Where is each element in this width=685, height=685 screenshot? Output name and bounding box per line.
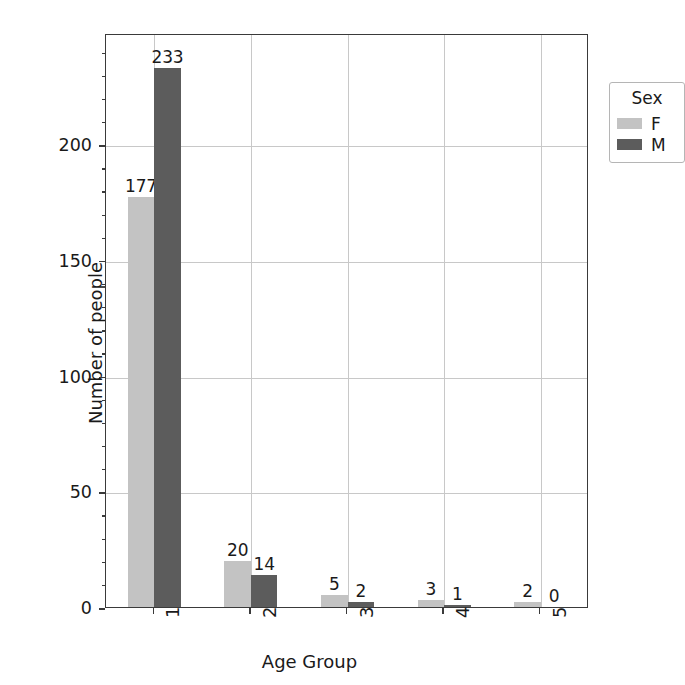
x-tick-mark-3 — [346, 608, 348, 614]
x-tick-label-2: 2 — [259, 607, 280, 618]
gridline-x-4 — [444, 35, 445, 607]
gridline-x-3 — [348, 35, 349, 607]
bar-value-label-M-group-2: 14 — [245, 554, 284, 574]
y-tick-label-200: 200 — [59, 135, 92, 155]
y-tick-label-150: 150 — [59, 251, 92, 271]
x-tick-label-4: 4 — [452, 607, 473, 618]
x-tick-label-3: 3 — [356, 607, 377, 618]
x-tick-mark-4 — [442, 608, 444, 614]
bar-value-label-M-group-1: 233 — [148, 47, 187, 67]
bar-M-group-1[interactable] — [154, 68, 181, 607]
legend-item-f[interactable]: F — [616, 113, 678, 134]
bar-value-label-M-group-5: 0 — [535, 586, 574, 606]
legend-swatch-m-icon — [617, 139, 642, 150]
x-tick-mark-2 — [249, 608, 251, 614]
legend-label-f: F — [651, 114, 661, 134]
x-tick-label-1: 1 — [162, 607, 183, 618]
y-tick-label-0: 0 — [81, 598, 92, 618]
plot-area: 1772332014523120 Sex F M — [105, 34, 588, 608]
y-tick-label-100: 100 — [59, 367, 92, 387]
y-tick-label-50: 50 — [70, 482, 92, 502]
legend-label-m: M — [651, 135, 666, 155]
gridline-x-5 — [541, 35, 542, 607]
x-tick-mark-1 — [153, 608, 155, 614]
legend-swatch-f-icon — [617, 118, 642, 129]
bar-M-group-2[interactable] — [251, 575, 278, 607]
bar-value-label-M-group-4: 1 — [438, 584, 477, 604]
bar-value-label-M-group-3: 2 — [342, 581, 381, 601]
legend-title: Sex — [616, 88, 678, 108]
x-tick-mark-5 — [539, 608, 541, 614]
gridline-x-2 — [251, 35, 252, 607]
x-axis-label: Age Group — [0, 651, 619, 672]
legend: Sex F M — [609, 82, 685, 163]
y-tick-mark-0 — [99, 608, 105, 610]
bar-F-group-1[interactable] — [128, 197, 155, 607]
x-tick-label-5: 5 — [549, 607, 570, 618]
legend-item-m[interactable]: M — [616, 134, 678, 155]
